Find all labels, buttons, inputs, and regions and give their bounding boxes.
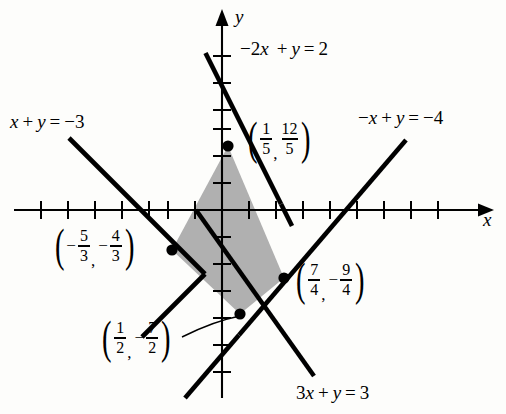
equation-label-minus2x-plus-y: −2x+y=2 xyxy=(240,39,328,58)
vertex-right-dot xyxy=(278,272,289,283)
close-paren: ) xyxy=(161,321,171,354)
vertex-bottom-label: ( 1 2 , − 7 2 ) xyxy=(99,320,174,356)
coefficient: 3 xyxy=(296,382,306,403)
equals-sign: = xyxy=(50,111,61,132)
vertex-top-dot xyxy=(222,140,233,151)
equation-label-3x-plus-y: 3x+y=3 xyxy=(296,383,369,402)
fraction-x: 7 4 xyxy=(307,262,321,298)
fraction-x: 1 2 xyxy=(113,320,127,356)
negative-sign-y: − xyxy=(329,271,339,288)
variable-y: y xyxy=(291,38,299,59)
comma: , xyxy=(321,286,328,303)
open-paren: ( xyxy=(102,321,112,354)
open-paren: ( xyxy=(296,263,306,296)
variable-x: x xyxy=(260,38,268,59)
fraction-y: 9 4 xyxy=(339,262,353,298)
leader-line-vertex-bottom xyxy=(182,316,240,337)
fraction-y: 7 2 xyxy=(145,320,159,356)
vertex-right-label: ( 7 4 , − 9 4 ) xyxy=(293,262,368,298)
variable-x: x xyxy=(10,111,18,132)
variable-y: y xyxy=(37,111,45,132)
fraction-y: 12 5 xyxy=(281,121,299,157)
close-paren: ) xyxy=(355,263,365,296)
comma: , xyxy=(273,145,280,162)
negative-sign-x: − xyxy=(66,237,76,254)
minus-sign: − xyxy=(358,107,369,128)
variable-x: x xyxy=(306,382,314,403)
open-paren: ( xyxy=(248,122,258,155)
equals-sign: = xyxy=(345,382,356,403)
plus-sign: + xyxy=(22,111,33,132)
open-paren: ( xyxy=(55,229,65,262)
negative-sign-y: − xyxy=(98,237,108,254)
minus-sign: − xyxy=(240,38,251,59)
y-axis-label: y xyxy=(235,6,243,28)
vertex-left-label: ( − 5 3 , − 4 3 ) xyxy=(52,228,137,264)
equation-label-minusx-plus-y: −x+y=−4 xyxy=(358,108,443,127)
line-minus2x-plus-y-extension xyxy=(281,204,292,226)
plus-sign: + xyxy=(318,382,329,403)
plus-sign: + xyxy=(381,107,392,128)
constant: 3 xyxy=(360,382,370,403)
fraction-x: 1 5 xyxy=(259,121,273,157)
coefficient: 2 xyxy=(251,38,261,59)
close-paren: ) xyxy=(300,122,310,155)
fraction-x: 5 3 xyxy=(77,228,91,264)
coordinate-plane xyxy=(0,0,506,414)
equals-sign: = xyxy=(304,38,315,59)
negative-sign-y: − xyxy=(135,329,145,346)
x-axis-label: x xyxy=(483,209,491,231)
plus-sign: + xyxy=(277,38,288,59)
vertex-left-dot xyxy=(166,244,177,255)
variable-y: y xyxy=(333,382,341,403)
comma: , xyxy=(127,344,134,361)
constant: −3 xyxy=(64,111,84,132)
line-minusx-plus-y-extension xyxy=(185,335,239,398)
equals-sign: = xyxy=(408,107,419,128)
variable-y: y xyxy=(396,107,404,128)
constant: −4 xyxy=(423,107,443,128)
variable-x: x xyxy=(369,107,377,128)
equation-label-x-plus-y: x+y=−3 xyxy=(10,112,85,131)
constant: 2 xyxy=(319,38,329,59)
figure-canvas: y x −2x+y=2 x+y=−3 −x+y=−4 3x+y=3 ( 1 5 … xyxy=(0,0,506,414)
vertex-top-label: ( 1 5 , 12 5 ) xyxy=(245,121,313,157)
vertex-bottom-dot xyxy=(234,308,245,319)
fraction-y: 4 3 xyxy=(109,228,123,264)
comma: , xyxy=(91,252,98,269)
close-paren: ) xyxy=(125,229,135,262)
